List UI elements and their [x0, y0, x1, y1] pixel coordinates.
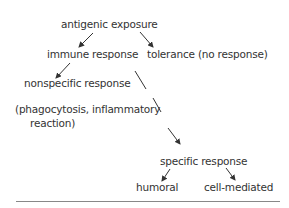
arrow-specific-to-humoral — [162, 169, 170, 181]
arrow-immune-to-specific-seg1 — [135, 71, 146, 89]
arrow-immune-to-nonspecific — [56, 63, 70, 78]
node-nonspecific-response: nonspecific response — [24, 77, 130, 89]
node-specific-response: specific response — [160, 155, 247, 167]
node-tolerance: tolerance (no response) — [147, 48, 268, 60]
arrow-root-to-tolerance — [140, 32, 153, 47]
node-nonspecific-detail-line1: (phagocytosis, inflammatory — [15, 103, 160, 115]
node-cell-mediated: cell-mediated — [204, 181, 273, 193]
arrow-immune-to-specific-seg3 — [168, 128, 180, 144]
arrow-root-to-immune — [79, 33, 93, 47]
node-antigenic-exposure: antigenic exposure — [61, 18, 158, 30]
node-nonspecific-detail-line2: reaction) — [30, 117, 75, 129]
bottom-divider — [16, 201, 280, 202]
node-immune-response: immune response — [47, 48, 138, 60]
arrow-specific-to-cell-mediated — [226, 168, 235, 180]
node-humoral: humoral — [136, 181, 178, 193]
